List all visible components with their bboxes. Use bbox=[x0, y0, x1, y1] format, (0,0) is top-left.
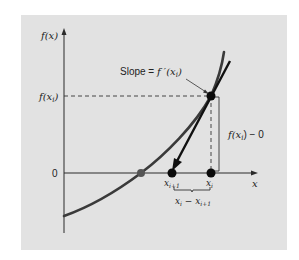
root-point bbox=[137, 169, 145, 177]
x-i-plus-1-point bbox=[168, 169, 177, 178]
tangent-point bbox=[207, 92, 216, 101]
x-axis-label: x bbox=[252, 178, 258, 189]
x-i-point bbox=[207, 169, 216, 178]
newton-raphson-diagram: f(x) f(xi) 0 Slope = f ′(xi) f(xi) − 0 x… bbox=[0, 0, 299, 260]
y-axis-label: f(x) bbox=[40, 30, 58, 41]
zero-label: 0 bbox=[52, 168, 58, 179]
